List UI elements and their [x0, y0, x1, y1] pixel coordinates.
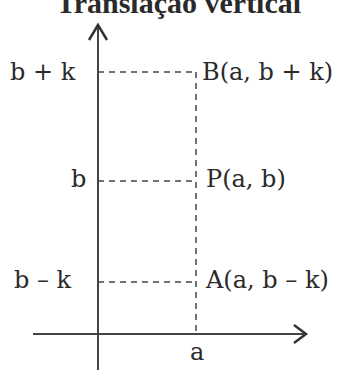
tick-b-plus-k: b + k [10, 60, 75, 84]
tick-b-minus-k: b – k [14, 268, 71, 292]
point-A: A(a, b – k) [206, 268, 329, 292]
point-P: P(a, b) [206, 167, 286, 191]
x-label-a: a [190, 340, 204, 364]
point-B: B(a, b + k) [202, 60, 333, 84]
tick-b: b [71, 167, 86, 191]
coordinate-axes [0, 0, 357, 370]
